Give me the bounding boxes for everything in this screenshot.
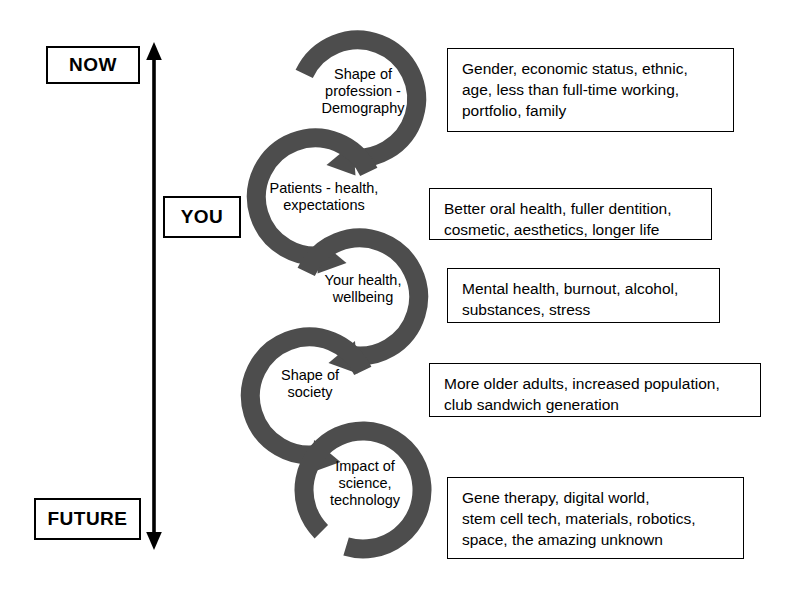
detail-box-your-health: Mental health, burnout, alcohol, substan… [447,268,720,323]
timeline-label-you-text: YOU [181,206,224,228]
detail-box-demography: Gender, economic status, ethnic, age, le… [447,48,734,132]
detail-box-patients: Better oral health, fuller dentition, co… [429,188,712,240]
timeline-label-future-text: FUTURE [47,508,127,530]
detail-box-society: More older adults, increased population,… [429,363,761,417]
detail-box-science: Gene therapy, digital world, stem cell t… [447,477,744,559]
timeline-label-future: FUTURE [34,498,141,540]
timeline-double-arrow-icon [139,40,169,552]
cycle-arrows-graphic [230,25,445,580]
timeline-label-now: NOW [46,46,140,84]
diagram-canvas: NOW YOU FUTURE [0,0,793,596]
timeline-label-now-text: NOW [69,54,117,76]
cycle-ring-science [304,431,422,549]
